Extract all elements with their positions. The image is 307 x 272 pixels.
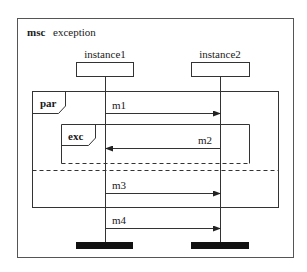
message-label: m2	[198, 134, 212, 146]
message-m3[interactable]: m3	[106, 179, 221, 194]
msc-diagram: msc exception instance1 instance2 par ex…	[0, 0, 307, 272]
instance2-end	[191, 242, 249, 249]
msc-title: exception	[53, 26, 96, 38]
message-label: m1	[112, 99, 126, 111]
instance1-head[interactable]	[77, 63, 134, 77]
message-m2[interactable]: m2	[106, 134, 221, 149]
instance1-label: instance1	[84, 48, 126, 60]
par-operator: par	[40, 97, 57, 109]
instance2-label: instance2	[199, 48, 241, 60]
msc-keyword: msc	[27, 26, 45, 38]
msc-frame	[18, 19, 294, 258]
instance2-head[interactable]	[192, 63, 250, 77]
instance1-end	[76, 242, 133, 249]
par-frame[interactable]	[33, 92, 279, 208]
message-label: m4	[112, 214, 127, 226]
message-m4[interactable]: m4	[106, 214, 221, 229]
message-m1[interactable]: m1	[106, 99, 221, 114]
exc-operator: exc	[68, 130, 83, 142]
message-label: m3	[112, 179, 127, 191]
